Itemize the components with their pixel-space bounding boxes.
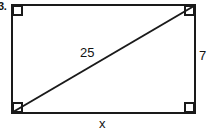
width-unknown-label: x [99,117,106,130]
problem-number-label: 3. [0,1,7,12]
diagonal-length-label: 25 [80,46,94,59]
height-length-label: 7 [199,49,206,62]
geometry-diagram: 3. 25 7 x [0,0,210,131]
rectangle-figure [0,0,210,131]
